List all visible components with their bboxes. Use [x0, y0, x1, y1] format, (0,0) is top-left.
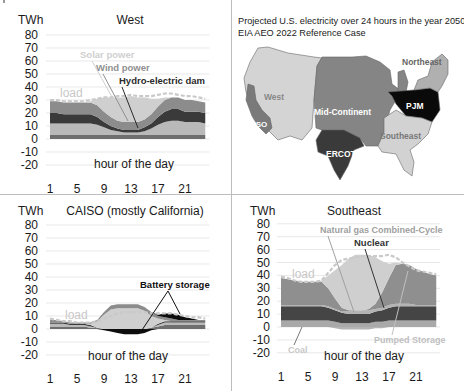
annotation-battery: Battery storage [140, 279, 210, 290]
x-axis: 159131721 [278, 370, 423, 384]
y-tick-label: -10 [253, 333, 271, 347]
y-tick-label: 40 [25, 270, 39, 284]
annotation-nuclear: Nuclear [354, 237, 389, 248]
x-tick-label: 17 [151, 372, 165, 386]
x-tick-label: 5 [74, 182, 81, 194]
y-tick-label: 80 [25, 28, 39, 42]
xlabel: hour of the day [324, 349, 404, 363]
y-tick-label: 0 [263, 320, 270, 334]
x-tick-label: 5 [305, 370, 312, 384]
xlabel: hour of the day [88, 349, 168, 363]
y-tick-label: 20 [257, 294, 271, 308]
y-tick-label: 0 [31, 322, 38, 336]
gridlines [46, 225, 209, 355]
y-tick-label: 10 [25, 119, 39, 133]
ylabel: TWh [18, 13, 43, 27]
y-tick-label: 30 [25, 283, 39, 297]
chart-west: TWh West 80706050403020100-10-20 1591317… [0, 0, 231, 194]
y-tick-label: 60 [25, 244, 39, 258]
x-tick-label: 9 [332, 370, 339, 384]
y-tick-label: 60 [257, 243, 271, 257]
ylabel: TWh [18, 204, 43, 218]
y-tick-label: 10 [257, 307, 271, 321]
annotation-pumped: Pumped Storage [374, 335, 446, 345]
annotation-wind: Wind power [96, 62, 150, 73]
x-tick-label: 1 [278, 370, 285, 384]
y-axis: 80706050403020100-10-20 [21, 28, 39, 172]
map-label-west: West [264, 92, 284, 102]
x-tick-label: 1 [47, 182, 54, 194]
y-tick-label: 0 [31, 132, 38, 146]
region-southeast [378, 110, 432, 176]
x-tick-label: 21 [409, 370, 423, 384]
chart-title: CAISO (mostly California) [66, 204, 203, 218]
map-title-line2: EIA AEO 2022 Reference Case [238, 28, 366, 38]
x-tick-label: 9 [101, 182, 108, 194]
map-panel: Projected U.S. electricity over 24 hours… [232, 0, 464, 194]
chart-southeast: TWh Southeast 80706050403020100-10-20 15… [232, 195, 464, 391]
y-tick-label: 20 [25, 296, 39, 310]
x-tick-label: 13 [124, 372, 138, 386]
y-tick-label: -10 [21, 145, 39, 159]
x-axis: 159131721 [47, 182, 192, 194]
x-tick-label: 9 [101, 372, 108, 386]
y-tick-label: 40 [257, 268, 271, 282]
y-tick-label: -20 [253, 346, 271, 360]
x-tick-label: 13 [355, 370, 369, 384]
map-label-ercot: ERCOT [326, 149, 357, 159]
chart-title: West [116, 13, 144, 27]
map-label-northeast: Northeast [402, 57, 442, 67]
y-tick-label: 70 [25, 231, 39, 245]
region-michigan [398, 70, 408, 92]
y-tick-label: 10 [25, 309, 39, 323]
area-other-base [50, 135, 205, 139]
y-tick-label: -10 [21, 335, 39, 349]
y-tick-label: 80 [257, 217, 271, 231]
area-pumped-storage-charge- [281, 327, 436, 330]
annotation-ngcc: Natural gas Combined-Cycle [320, 225, 443, 235]
map-title-line1: Projected U.S. electricity over 24 hours… [238, 16, 464, 26]
y-tick-label: 50 [25, 67, 39, 81]
y-tick-label: 50 [257, 256, 271, 270]
chart-caiso: TWh CAISO (mostly California) 8070605040… [0, 195, 231, 391]
y-tick-label: -20 [21, 348, 39, 362]
y-axis: 80706050403020100-10-20 [253, 217, 271, 360]
annotation-load: load [65, 308, 88, 322]
y-tick-label: 80 [25, 218, 39, 232]
annotation-load: load [60, 86, 83, 100]
x-tick-label: 21 [178, 372, 192, 386]
y-tick-label: 30 [25, 93, 39, 107]
x-tick-label: 1 [47, 372, 54, 386]
map-label-pjm: PJM [406, 101, 423, 111]
y-tick-label: 50 [25, 257, 39, 271]
x-tick-label: 21 [178, 182, 192, 194]
y-tick-label: 30 [257, 281, 271, 295]
y-tick-label: 40 [25, 80, 39, 94]
x-tick-label: 17 [382, 370, 396, 384]
annotation-hydro: Hydro-electric dam [119, 75, 205, 86]
x-tick-label: 13 [124, 182, 138, 194]
annotation-solar: Solar power [80, 49, 135, 60]
annotation-coal: Coal [288, 345, 308, 355]
x-tick-label: 5 [74, 372, 81, 386]
y-tick-label: 60 [25, 54, 39, 68]
stacked-areas [281, 255, 436, 330]
y-tick-label: 20 [25, 106, 39, 120]
area-battery-storage-charge- [50, 329, 205, 334]
y-tick-label: -20 [21, 158, 39, 172]
leader-coal [294, 327, 302, 345]
y-tick-label: 70 [257, 230, 271, 244]
x-axis: 159131721 [47, 372, 192, 386]
x-tick-label: 17 [151, 182, 165, 194]
map-label-southeast: Southeast [380, 131, 421, 141]
xlabel: hour of the day [94, 157, 174, 171]
y-axis: 80706050403020100-10-20 [21, 218, 39, 362]
map-label-caiso: CAISO [242, 120, 267, 129]
y-tick-label: 70 [25, 41, 39, 55]
annotation-load: load [292, 267, 315, 281]
figure: TWh West 80706050403020100-10-20 1591317… [0, 0, 464, 391]
chart-title: Southeast [327, 204, 382, 218]
map-label-midcontinent: Mid-Continent [314, 107, 371, 117]
